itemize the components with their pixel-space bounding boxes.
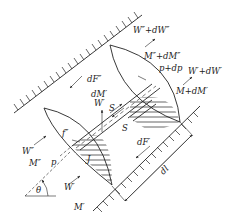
element-force-diagram: W″+dW″ M″+dM″ p+dp W′+dW′ M+dM′ dF″ dM′ … [0, 0, 237, 224]
w2dw2-arrow [145, 39, 155, 47]
label-dl: dl [158, 163, 171, 176]
label-p: p [51, 157, 57, 167]
label-w2: W″ [22, 146, 35, 156]
label-p-plus-dp: p+dp [159, 63, 183, 73]
w2-arrow [34, 136, 46, 145]
dl-dimension [112, 122, 193, 201]
label-s-top: S [109, 103, 115, 113]
label-f2: f″ [61, 128, 69, 138]
label-w1: W′ [64, 182, 75, 192]
df2-arrow [70, 76, 82, 88]
upper-wall [14, 12, 142, 113]
label-df1: dF′ [137, 137, 150, 147]
label-m2-plus-dm2: M″+dM″ [143, 51, 181, 61]
df1-arrow [136, 146, 150, 158]
w1dw1-arrow [183, 77, 192, 85]
label-theta: θ [36, 185, 41, 195]
upper-wall-hatching [14, 12, 138, 110]
label-s-bottom: S [122, 123, 128, 133]
label-m1: M′ [73, 202, 85, 212]
label-df2: dF″ [87, 74, 102, 84]
label-w1-plus-dw1: W′+dW′ [188, 66, 222, 76]
label-w1-mid: W′ [94, 98, 105, 108]
hatched-area-j [60, 130, 130, 180]
label-m-plus-dm1: M+dM′ [175, 86, 208, 96]
label-w2-plus-dw2: W″+dW″ [133, 25, 170, 35]
label-m2: M″ [28, 158, 42, 168]
